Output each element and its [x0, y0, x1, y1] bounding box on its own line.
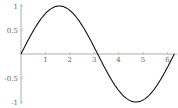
x-tick-label: 5 — [141, 56, 145, 64]
y-tick-label: 1 — [14, 3, 18, 11]
x-tick-label: 3 — [92, 56, 96, 64]
x-tick-label: 1 — [43, 56, 47, 64]
sine-plot: 123456-1-0.50.51 — [0, 0, 178, 108]
axes: 123456-1-0.50.51 — [5, 3, 178, 107]
y-tick-label: -0.5 — [5, 75, 19, 83]
y-tick-label: -1 — [11, 99, 18, 107]
y-tick-label: 0.5 — [7, 27, 18, 35]
x-tick-label: 4 — [116, 56, 121, 64]
x-tick-label: 2 — [68, 56, 72, 64]
